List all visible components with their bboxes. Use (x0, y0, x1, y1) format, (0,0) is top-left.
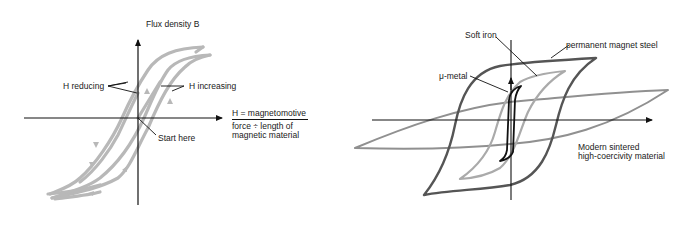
h-axis-label-line3: magnetic material (232, 130, 299, 140)
h-axis-label-line1: H = magnetomotive (232, 108, 306, 118)
mu-metal-label: μ-metal (439, 71, 468, 81)
hysteresis-diagrams-svg (0, 0, 696, 233)
left-hysteresis-diagram (24, 40, 222, 205)
flux-density-axis-label: Flux density B (146, 19, 199, 29)
permanent-magnet-steel-label: permanent magnet steel (566, 40, 658, 50)
left-leader-lines (108, 82, 184, 135)
right-hysteresis-diagram (355, 37, 668, 200)
h-reducing-label: H reducing (63, 81, 104, 91)
h-increasing-label: H increasing (189, 81, 236, 91)
soft-iron-label: Soft iron (465, 30, 497, 40)
soft-iron-loop (460, 71, 565, 179)
hysteresis-loops (48, 47, 210, 199)
start-here-label: Start here (158, 133, 195, 143)
hysteresis-figure: Flux density B H reducing H increasing S… (0, 0, 696, 233)
h-axis-label-divider (232, 119, 308, 120)
sintered-material-label-line2: high-coercivity material (578, 151, 665, 161)
